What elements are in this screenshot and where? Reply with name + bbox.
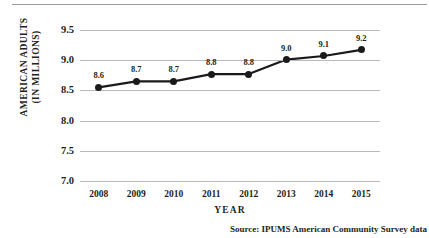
x-axis-tick-label: 2014 — [304, 189, 344, 199]
gridline — [80, 121, 380, 122]
gridline — [80, 30, 380, 31]
gridline — [80, 151, 380, 152]
x-axis-tick-label: 2015 — [341, 189, 381, 199]
data-point-label: 8.8 — [231, 58, 267, 67]
series-line-path — [80, 30, 380, 181]
data-point-marker — [208, 71, 215, 78]
data-point-marker — [133, 78, 140, 85]
x-axis-tick-label: 2013 — [266, 189, 306, 199]
data-point-marker — [245, 71, 252, 78]
y-axis-tick-label: 7.5 — [26, 146, 74, 156]
x-axis-tick-label: 2010 — [154, 189, 194, 199]
gridline — [80, 90, 380, 91]
top-divider-rule — [12, 4, 427, 5]
data-point-label: 8.6 — [81, 71, 117, 80]
y-axis-tick-label: 9.5 — [26, 25, 74, 35]
x-axis-tick-label: 2008 — [79, 189, 119, 199]
x-axis-tick-label: 2011 — [191, 189, 231, 199]
x-axis-tick-label: 2012 — [229, 189, 269, 199]
plot-area — [80, 30, 380, 181]
data-point-label: 9.2 — [343, 34, 379, 43]
data-point-marker — [283, 56, 290, 63]
data-point-label: 9.1 — [306, 40, 342, 49]
data-point-label: 8.8 — [193, 58, 229, 67]
x-axis-title: YEAR — [80, 205, 380, 215]
x-axis-tick-label: 2009 — [116, 189, 156, 199]
y-axis-tick-label: 9.0 — [26, 55, 74, 65]
data-point-label: 8.7 — [156, 65, 192, 74]
y-axis-tick-label: 8.0 — [26, 116, 74, 126]
data-point-label: 8.7 — [118, 65, 154, 74]
data-point-label: 9.0 — [268, 44, 304, 53]
gridline — [80, 181, 380, 182]
y-axis-tick-label: 8.5 — [26, 85, 74, 95]
source-note: Source: IPUMS American Community Survey … — [230, 224, 427, 234]
y-axis-tick-label: 7.0 — [26, 176, 74, 186]
chart-figure: AMERICAN ADULTS (IN MILLIONS) 9.59.08.58… — [0, 0, 429, 238]
